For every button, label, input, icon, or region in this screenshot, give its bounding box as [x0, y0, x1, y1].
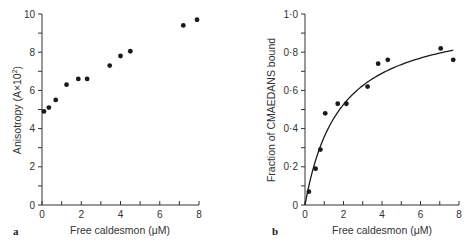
panel-a-data-point [46, 105, 51, 110]
panel-a-y-tick-label: 4 [29, 123, 35, 134]
panel-a-data-point [128, 49, 133, 54]
panel-b-x-tick-label: 0 [302, 209, 308, 220]
panel-a-x-axis-title: Free caldesmon (μM) [70, 224, 170, 236]
panel-b-label: b [272, 225, 278, 237]
panel-b-binding-chart: 0246800·20·40·60·81·0 Fraction of CMAEDA… [265, 9, 462, 238]
panel-a-data-point [195, 17, 200, 22]
panel-b-x-axis-title: Free caldesmon (μM) [332, 224, 432, 236]
panel-b-axes: 0246800·20·40·60·81·0 [284, 9, 463, 221]
figure: 024680246810 Anisotropy (A×102) Free cal… [0, 0, 467, 242]
panel-b-data-point [451, 57, 456, 62]
panel-b-fit-curve [305, 50, 453, 205]
panel-a-y-tick-label: 2 [29, 161, 35, 172]
panel-a-data-point [64, 82, 69, 87]
panel-b-data-point [385, 57, 390, 62]
panel-a-x-tick-label: 4 [118, 209, 124, 220]
panel-a-data-point [42, 109, 47, 114]
panel-a-data-point [118, 54, 123, 59]
panel-a-anisotropy-chart: 024680246810 Anisotropy (A×102) Free cal… [11, 9, 202, 238]
panel-a-data-point [85, 77, 90, 82]
panel-a-label: a [13, 225, 19, 237]
panel-b-x-tick-label: 2 [341, 209, 347, 220]
panel-a-data-point [107, 63, 112, 68]
panel-a-y-axis-title: Anisotropy (A×102) [11, 66, 23, 154]
panel-a-x-tick-label: 8 [196, 209, 202, 220]
panel-b-x-tick-label: 8 [456, 209, 462, 220]
panel-a-data-points [42, 17, 200, 113]
panel-b-y-tick-label: 1·0 [284, 9, 299, 20]
panel-a-data-point [181, 23, 186, 28]
panel-a-axes: 024680246810 [24, 9, 202, 221]
panel-b-data-point [335, 101, 340, 106]
panel-a-y-tick-label: 8 [29, 47, 35, 58]
panel-b-y-tick-label: 0·6 [284, 85, 299, 96]
panel-b-y-axis-title: Fraction of CMAEDANS bound [265, 38, 277, 182]
panel-a-data-point [53, 98, 58, 103]
panel-b-data-point [438, 46, 443, 51]
panel-b-data-point [365, 84, 370, 89]
panel-a-x-tick-label: 6 [157, 209, 163, 220]
panel-b-data-point [306, 189, 311, 194]
panel-b-data-point [344, 101, 349, 106]
panel-a-x-tick-label: 2 [78, 209, 84, 220]
panel-a-x-tick-label: 0 [39, 209, 45, 220]
panel-b-x-tick-label: 4 [379, 209, 385, 220]
panel-b-y-tick-label: 0·4 [284, 123, 299, 134]
panel-b-data-points [306, 46, 455, 194]
panel-a-y-tick-label: 0 [29, 200, 35, 211]
panel-b-data-point [313, 166, 318, 171]
panel-a-y-tick-label: 10 [24, 9, 36, 20]
panel-b-data-point [323, 111, 328, 116]
panel-a-y-tick-label: 6 [29, 85, 35, 96]
panel-a-data-point [76, 77, 81, 82]
panel-b-x-tick-label: 6 [418, 209, 424, 220]
panel-b-data-point [318, 147, 323, 152]
panel-b-y-tick-label: 0·8 [284, 47, 299, 58]
panel-b-data-point [376, 61, 381, 66]
panel-b-y-tick-label: 0 [292, 200, 298, 211]
panel-b-y-tick-label: 0·2 [284, 161, 299, 172]
